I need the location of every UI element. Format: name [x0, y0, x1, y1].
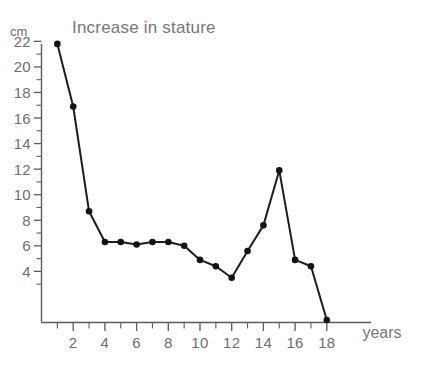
chart-title: Increase in stature [72, 18, 216, 37]
x-tick-label: 8 [164, 334, 173, 351]
y-tick-label: 14 [14, 135, 31, 152]
data-point [260, 222, 267, 229]
data-point [308, 263, 315, 270]
data-point [244, 248, 251, 255]
data-point [149, 239, 156, 246]
y-tick-label: 4 [22, 263, 31, 280]
chart-container: Increase in stature cm years 46810121416… [0, 0, 441, 372]
data-point [324, 317, 331, 324]
x-tick-label: 4 [101, 334, 110, 351]
x-tick-label: 18 [318, 334, 335, 351]
data-point [70, 103, 77, 110]
x-tick-label: 6 [132, 334, 141, 351]
data-point [102, 239, 109, 246]
x-tick-label: 14 [255, 334, 272, 351]
data-point [86, 208, 93, 215]
x-tick-label: 10 [191, 334, 208, 351]
data-point [133, 241, 140, 248]
data-point [292, 257, 299, 264]
chart-background [0, 0, 441, 372]
y-tick-label: 22 [14, 33, 31, 50]
data-point [54, 41, 61, 48]
y-tick-label: 20 [14, 58, 31, 75]
x-tick-label: 12 [223, 334, 240, 351]
data-point [181, 243, 188, 250]
y-tick-label: 16 [14, 110, 31, 127]
x-tick-label: 2 [69, 334, 78, 351]
y-tick-label: 12 [14, 161, 31, 178]
x-axis-title: years [362, 324, 401, 341]
data-point [117, 239, 124, 246]
data-point [228, 274, 235, 281]
x-tick-label: 16 [286, 334, 303, 351]
data-point [213, 263, 220, 270]
data-point [276, 167, 283, 174]
y-tick-label: 18 [14, 84, 31, 101]
y-tick-label: 10 [14, 186, 31, 203]
y-tick-label: 8 [22, 212, 31, 229]
x-axis-tick-labels: 24681012141618 [69, 334, 336, 351]
line-chart: Increase in stature cm years 46810121416… [0, 0, 441, 372]
data-point [165, 239, 172, 246]
data-point [197, 257, 204, 264]
y-tick-label: 6 [22, 237, 31, 254]
